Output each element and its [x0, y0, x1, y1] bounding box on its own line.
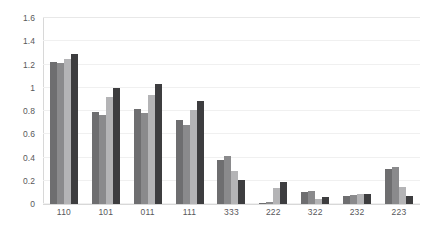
bar: [259, 203, 266, 204]
bar: [392, 167, 399, 204]
bar: [224, 156, 231, 204]
y-tick-label: 1.6: [0, 14, 35, 23]
bar: [343, 196, 350, 204]
y-tick-label: 0.4: [0, 153, 35, 162]
bar: [134, 109, 141, 204]
x-axis-line: [43, 204, 420, 205]
y-tick-label: 1.2: [0, 60, 35, 69]
bar-group: [385, 18, 413, 204]
y-tick-label: 1: [0, 84, 35, 93]
bar-group: [259, 18, 287, 204]
bar: [71, 54, 78, 204]
bar-group: [92, 18, 120, 204]
bar: [273, 188, 280, 204]
bar-group: [343, 18, 371, 204]
bar: [92, 112, 99, 204]
bar: [280, 182, 287, 204]
bar: [350, 195, 357, 204]
y-tick-label: 0: [0, 200, 35, 209]
bar: [231, 171, 238, 204]
x-tick-label: 222: [252, 208, 294, 217]
bar: [406, 196, 413, 204]
bar: [301, 192, 308, 204]
x-tick-label: 223: [378, 208, 420, 217]
bar: [141, 113, 148, 204]
x-axis-tick-labels: 110101011111333222322232223: [43, 208, 420, 217]
y-tick-label: 0.6: [0, 130, 35, 139]
x-tick-label: 333: [211, 208, 253, 217]
bar: [64, 59, 71, 204]
bar: [266, 202, 273, 204]
bar: [217, 160, 224, 204]
bar: [357, 194, 364, 204]
bar: [364, 194, 371, 204]
bar: [399, 187, 406, 204]
bar: [57, 63, 64, 204]
y-tick-label: 1.4: [0, 37, 35, 46]
bar: [238, 180, 245, 204]
plot-area: [43, 18, 420, 204]
bar: [183, 125, 190, 204]
bar: [322, 197, 329, 204]
bar: [148, 95, 155, 204]
x-tick-label: 322: [294, 208, 336, 217]
bars-layer: [43, 18, 420, 204]
x-tick-label: 232: [336, 208, 378, 217]
bar-group: [50, 18, 78, 204]
bar: [50, 62, 57, 204]
bar-chart: 00.20.40.60.811.21.41.6 1101010111113332…: [0, 0, 429, 245]
x-tick-label: 011: [127, 208, 169, 217]
bar: [99, 115, 106, 205]
bar-group: [301, 18, 329, 204]
x-tick-label: 101: [85, 208, 127, 217]
bar-group: [217, 18, 245, 204]
bar: [155, 84, 162, 204]
y-tick-label: 0.8: [0, 107, 35, 116]
bar: [190, 110, 197, 204]
bar: [315, 199, 322, 204]
y-tick-label: 0.2: [0, 177, 35, 186]
bar: [385, 169, 392, 204]
bar: [197, 101, 204, 204]
bar-group: [176, 18, 204, 204]
x-tick-label: 110: [43, 208, 85, 217]
bar: [106, 97, 113, 204]
x-tick-label: 111: [169, 208, 211, 217]
bar: [308, 191, 315, 204]
bar-group: [134, 18, 162, 204]
bar: [176, 120, 183, 204]
bar: [113, 88, 120, 204]
